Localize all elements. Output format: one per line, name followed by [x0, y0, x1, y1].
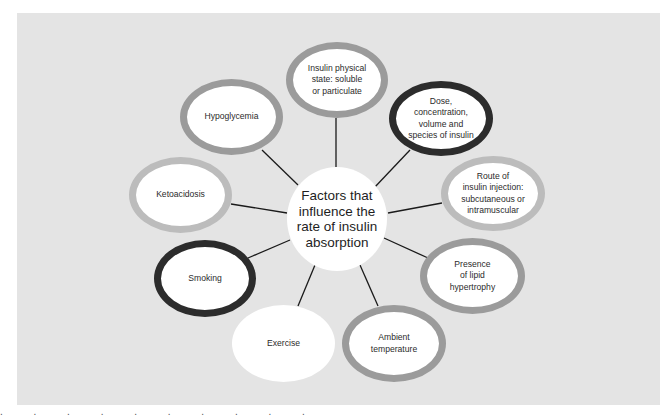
- node-label-line: Presence: [450, 259, 495, 271]
- node-label-line: Insulin physical: [308, 63, 366, 75]
- caption-fragment: . . . . . . . . . .: [0, 409, 669, 416]
- node-label-line: species of insulin: [408, 130, 473, 142]
- node-label-line: insulin injection:: [461, 182, 525, 194]
- center-line: absorption: [297, 235, 377, 251]
- node-label-line: subcutaneous or: [461, 194, 525, 206]
- node-route-of-injection: Route of insulin injection: subcutaneous…: [441, 156, 545, 231]
- node-label-line: hypertrophy: [450, 282, 495, 294]
- node-hypoglycemia: Hypoglycemia: [180, 79, 283, 155]
- node-label-line: Ambient: [371, 332, 417, 344]
- connector-smoking: [248, 240, 290, 258]
- node-lipid-hypertrophy: Presence of lipid hypertrophy: [420, 238, 525, 314]
- connector-dose: [374, 150, 410, 188]
- node-label-line: or particulate: [308, 86, 366, 98]
- node-label-line: Route of: [461, 171, 525, 183]
- connector-ambient-temperature: [360, 265, 378, 306]
- node-label-line: Smoking: [188, 273, 221, 285]
- connector-route: [388, 203, 442, 213]
- connector-hypoglycemia: [262, 150, 298, 185]
- node-ketoacidosis: Ketoacidosis: [129, 157, 232, 233]
- connector-ketoacidosis: [231, 204, 287, 213]
- node-label-line: Hypoglycemia: [205, 111, 259, 123]
- center-line: influence the: [297, 204, 377, 220]
- node-label-line: volume and: [408, 119, 473, 131]
- node-label-line: state: soluble: [308, 74, 366, 86]
- node-smoking: Smoking: [154, 240, 256, 317]
- center-line: Factors that: [297, 188, 377, 204]
- node-label-line: Exercise: [267, 338, 300, 350]
- clipped-caption-text: . . . . . . . . . .: [0, 409, 669, 416]
- node-label-line: of lipid: [450, 270, 495, 282]
- node-ambient-temperature: Ambient temperature: [342, 305, 446, 382]
- node-label-line: concentration,: [408, 107, 473, 119]
- connector-lipid-hypertrophy: [384, 238, 428, 258]
- node-label-line: Ketoacidosis: [156, 189, 205, 201]
- node-label-line: intramuscular: [461, 205, 525, 217]
- center-hub-node: Factors that influence the rate of insul…: [287, 167, 387, 271]
- center-line: rate of insulin: [297, 219, 377, 235]
- node-label-line: temperature: [371, 344, 417, 356]
- connector-exercise: [298, 265, 315, 306]
- node-insulin-physical-state: Insulin physical state: soluble or parti…: [286, 42, 388, 118]
- node-label-line: Dose,: [408, 96, 473, 108]
- node-dose-concentration: Dose, concentration, volume and species …: [389, 81, 493, 156]
- node-exercise: Exercise: [232, 305, 335, 382]
